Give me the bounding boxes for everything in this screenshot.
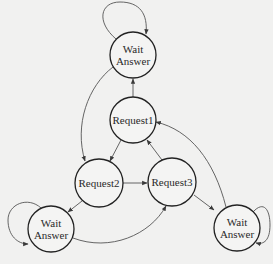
label-line: Answer [34,229,68,241]
label-line: Wait [34,217,68,229]
label-wait-top: Wait Answer [116,43,150,67]
label-line: Request2 [79,177,120,189]
label-request2: Request2 [79,177,120,189]
edge-wait-left-to-request3 [73,206,166,243]
label-line: Request3 [152,176,193,188]
edge-request2-to-wait-left [68,201,82,212]
state-diagram: Wait Answer Request1 Request2 Request3 W… [0,0,273,264]
label-wait-right: Wait Answer [220,216,254,240]
edge-request1-to-request2 [110,140,121,161]
label-line: Wait [220,216,254,228]
label-request1: Request1 [113,114,154,126]
label-line: Answer [116,55,150,67]
label-request3: Request3 [152,176,193,188]
edge-request3-to-wait-right [194,195,214,210]
label-line: Request1 [113,114,154,126]
label-wait-left: Wait Answer [34,217,68,241]
edge-request3-to-request1 [147,140,162,160]
label-line: Answer [220,228,254,240]
edge-wait-top-to-request2 [81,67,113,161]
label-line: Wait [116,43,150,55]
